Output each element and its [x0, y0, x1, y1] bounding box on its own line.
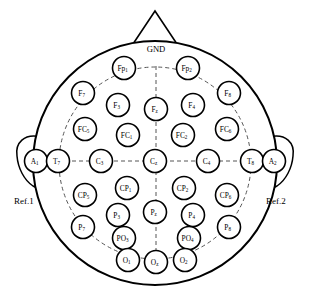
ref-left-label: Ref.1: [14, 196, 34, 206]
eeg-montage-svg: GND Ref.1 Ref.2 Fp1Fp2F7F3FzF4F8FC5FC1FC…: [0, 0, 310, 294]
electrode-a2[interactable]: A2: [263, 150, 286, 173]
electrode-fp2[interactable]: Fp2: [177, 57, 200, 80]
electrode-cz[interactable]: Cz: [144, 150, 167, 173]
electrode-p4[interactable]: P4: [182, 204, 205, 227]
electrode-cp1[interactable]: CP1: [116, 177, 139, 200]
electrode-c3[interactable]: C3: [90, 150, 113, 173]
electrode-o2[interactable]: O2: [174, 249, 197, 272]
gnd-label: GND: [147, 44, 166, 54]
electrode-fc5[interactable]: FC5: [74, 118, 97, 141]
electrode-fp1[interactable]: Fp1: [113, 57, 136, 80]
ref-right-label: Ref.2: [266, 196, 286, 206]
electrode-a1[interactable]: A1: [25, 150, 48, 173]
electrode-oz[interactable]: Oz: [145, 251, 168, 274]
electrode-cp6[interactable]: CP6: [216, 184, 239, 207]
electrode-o1[interactable]: O1: [117, 249, 140, 272]
electrode-t7[interactable]: T7: [47, 150, 70, 173]
electrode-f3[interactable]: F3: [107, 94, 130, 117]
electrode-f7[interactable]: F7: [72, 82, 95, 105]
electrode-p7[interactable]: P7: [72, 216, 95, 239]
electrode-fz[interactable]: Fz: [145, 98, 168, 121]
nose-triangle: [133, 11, 177, 44]
electrode-po3[interactable]: PO3: [113, 227, 136, 250]
electrode-fc2[interactable]: FC2: [172, 124, 195, 147]
electrode-cp2[interactable]: CP2: [173, 177, 196, 200]
electrode-f8[interactable]: F8: [218, 82, 241, 105]
electrode-cp5[interactable]: CP5: [74, 184, 97, 207]
electrode-f4[interactable]: F4: [182, 94, 205, 117]
electrode-p3[interactable]: P3: [107, 204, 130, 227]
electrode-fc1[interactable]: FC1: [117, 124, 140, 147]
electrode-po4[interactable]: PO4: [178, 227, 201, 250]
electrode-p8[interactable]: P8: [218, 216, 241, 239]
electrode-pz[interactable]: Pz: [144, 201, 167, 224]
electrode-t8[interactable]: T8: [241, 150, 264, 173]
eeg-electrode-diagram: GND Ref.1 Ref.2 Fp1Fp2F7F3FzF4F8FC5FC1FC…: [0, 0, 310, 294]
electrode-fc6[interactable]: FC6: [216, 118, 239, 141]
electrode-c4[interactable]: C4: [197, 150, 220, 173]
